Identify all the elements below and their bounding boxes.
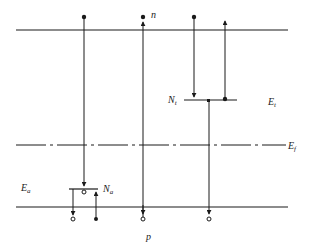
- label-Na: Na: [102, 183, 114, 196]
- trap-hole-emission: [207, 99, 211, 221]
- band-to-band-transition: [141, 15, 145, 221]
- acceptor-hole-emission: [71, 189, 75, 221]
- label-Nt: Nt: [167, 94, 178, 107]
- label-n: n: [151, 9, 156, 20]
- trap-electron-capture: [192, 15, 196, 97]
- label-p: p: [145, 231, 151, 242]
- label-Ea: Ea: [20, 182, 31, 195]
- label-Ef: Ef: [287, 140, 297, 153]
- label-Et: Et: [267, 96, 277, 109]
- electron-to-acceptor-transition: [82, 15, 86, 194]
- trap-electron-emission: [223, 21, 227, 101]
- band-diagram: n p Nt Et Ef Ea Na: [0, 0, 312, 248]
